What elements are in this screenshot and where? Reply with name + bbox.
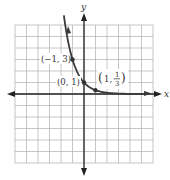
point-label-0-1: (0, 1) (57, 77, 80, 87)
x-axis-right-arrow-icon (154, 91, 162, 97)
point-label-1-third-den: 3 (115, 80, 119, 88)
x-axis-label: x (164, 89, 169, 99)
point-0-1 (82, 80, 86, 84)
point-label-neg1-3: (−1, 3) (41, 54, 71, 64)
y-axis-bottom-arrow-icon (81, 168, 87, 176)
point-label-1-third-x: 1, (104, 74, 112, 84)
point-label-1-third-close: ) (121, 71, 126, 85)
point-label-1-third-num: 1 (115, 71, 119, 79)
point-label-1-third-open: ( (98, 71, 103, 85)
y-axis-label: y (80, 2, 87, 12)
exponential-graph: x y (−1, 3) (0, 1) ( 1, 1 3 ) (0, 0, 170, 180)
y-axis-top-arrow-icon (81, 13, 87, 21)
curve-right-arrow-icon (144, 91, 152, 96)
x-axis-left-arrow-icon (7, 91, 15, 97)
